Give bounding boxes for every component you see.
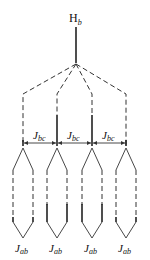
jab-label-1: Jab [15,242,28,256]
ab-splitting-diamond-3 [82,148,102,238]
energy-splitting-diagram: Hb Jbc Jbc Jbc [0,0,150,260]
fan-out-lines [23,64,126,145]
jbc-label-3: Jbc [102,129,115,143]
jbc-label-2: Jbc [67,129,80,143]
ab-splitting-diamond-4 [116,148,136,238]
root-label: Hb [69,11,82,27]
jab-label-4: Jab [118,242,131,256]
ab-splitting-diamond-2 [47,148,67,238]
ab-splitting-diamond-1 [13,148,33,238]
jab-label-2: Jab [49,242,62,256]
jab-label-3: Jab [84,242,97,256]
jbc-label-1: Jbc [33,129,46,143]
